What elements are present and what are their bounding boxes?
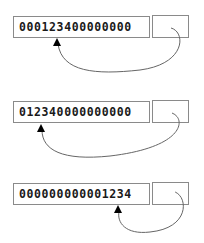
digit-register-box: 000000000001234: [13, 183, 150, 205]
digit-register-box: 012340000000000: [13, 101, 150, 123]
arrowhead-icon: [114, 205, 122, 213]
digit-register-box: 000123400000000: [13, 16, 150, 38]
pointer-box: [152, 100, 189, 123]
pointer-box: [152, 182, 189, 205]
register-value: 012340000000000: [19, 105, 132, 120]
arrowhead-icon: [53, 38, 61, 46]
register-value: 000123400000000: [19, 20, 132, 35]
register-value: 000000000001234: [19, 187, 132, 202]
arrowhead-icon: [37, 124, 45, 132]
pointer-box: [152, 15, 189, 38]
